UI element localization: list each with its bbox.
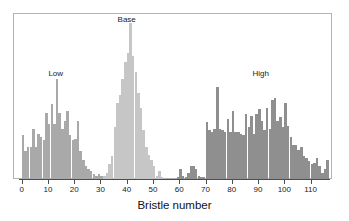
x-axis-tick-label: 20 bbox=[70, 185, 79, 195]
x-axis-tick bbox=[206, 179, 207, 184]
x-axis-tick-label: 0 bbox=[19, 185, 23, 195]
x-axis-tick-label: 50 bbox=[149, 185, 158, 195]
x-axis-tick-label: 110 bbox=[304, 185, 317, 195]
x-axis-tick bbox=[311, 179, 312, 184]
x-axis-tick bbox=[100, 179, 101, 184]
x-axis-tick bbox=[48, 179, 49, 184]
series-label-low: Low bbox=[48, 69, 63, 79]
x-axis-tick-label: 80 bbox=[227, 185, 236, 195]
x-axis-tick bbox=[127, 179, 128, 184]
x-axis-tick-label: 90 bbox=[254, 185, 263, 195]
x-axis-tick-label: 60 bbox=[175, 185, 184, 195]
x-axis-tick bbox=[258, 179, 259, 184]
series-label-base: Base bbox=[118, 15, 136, 25]
x-axis-tick bbox=[22, 179, 23, 184]
x-axis-title: Bristle number bbox=[0, 198, 349, 212]
x-axis-tick-label: 100 bbox=[278, 185, 291, 195]
x-axis-tick-label: 30 bbox=[96, 185, 105, 195]
x-axis-tick-label: 10 bbox=[43, 185, 52, 195]
x-axis-tick bbox=[74, 179, 75, 184]
x-axis-tick-label: 40 bbox=[122, 185, 131, 195]
histogram-bar bbox=[326, 160, 328, 179]
series-label-high: High bbox=[252, 69, 268, 79]
x-axis-tick bbox=[232, 179, 233, 184]
bars-layer bbox=[19, 17, 329, 179]
x-axis-tick bbox=[153, 179, 154, 184]
histogram-figure: 0102030405060708090100110 LowBaseHigh Br… bbox=[0, 0, 349, 221]
x-axis-tick bbox=[284, 179, 285, 184]
x-axis-tick bbox=[179, 179, 180, 184]
x-axis-tick-label: 70 bbox=[201, 185, 210, 195]
